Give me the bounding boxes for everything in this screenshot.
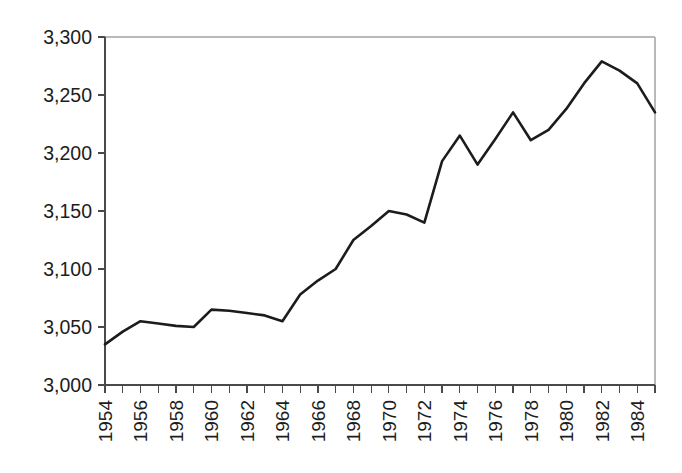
x-tick-label: 1954 <box>95 400 116 443</box>
y-tick-label: 3,150 <box>43 200 92 222</box>
x-tick-label: 1964 <box>272 400 293 443</box>
x-tick-label: 1978 <box>521 400 542 442</box>
x-tick-label: 1970 <box>379 400 400 442</box>
x-tick-label: 1968 <box>343 400 364 442</box>
x-axis-ticks <box>105 385 655 393</box>
figure-root: 3,0003,0503,1003,1503,2003,2503,300 1954… <box>0 0 682 473</box>
x-axis-tick-labels: 1954195619581960196219641966196819701972… <box>95 400 648 443</box>
y-tick-label: 3,100 <box>43 258 92 280</box>
x-tick-label: 1956 <box>130 400 151 442</box>
x-tick-label: 1966 <box>308 400 329 442</box>
y-tick-label: 3,250 <box>43 84 92 106</box>
x-tick-label: 1962 <box>237 400 258 442</box>
y-tick-label: 3,050 <box>43 316 92 338</box>
x-tick-label: 1982 <box>592 400 613 442</box>
x-tick-label: 1980 <box>556 400 577 442</box>
x-tick-label: 1972 <box>414 400 435 442</box>
x-tick-label: 1958 <box>166 400 187 442</box>
x-tick-label: 1960 <box>201 400 222 442</box>
x-tick-label: 1984 <box>627 400 648 443</box>
y-tick-label: 3,000 <box>43 374 92 396</box>
x-tick-label: 1974 <box>450 400 471 443</box>
y-axis-tick-labels: 3,0003,0503,1003,1503,2003,2503,300 <box>43 26 92 396</box>
plot-frame <box>105 37 655 385</box>
y-tick-label: 3,200 <box>43 142 92 164</box>
y-axis-ticks <box>98 37 105 385</box>
line-chart: 3,0003,0503,1003,1503,2003,2503,300 1954… <box>0 0 682 473</box>
y-tick-label: 3,300 <box>43 26 92 48</box>
x-tick-label: 1976 <box>485 400 506 442</box>
data-series-line <box>105 61 655 344</box>
